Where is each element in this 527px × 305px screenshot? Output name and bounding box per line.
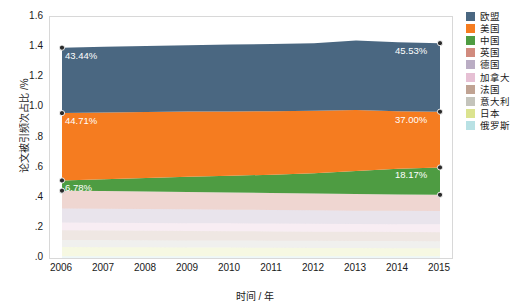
legend-item[interactable]: 日本 (466, 108, 526, 120)
legend-label: 俄罗斯 (480, 120, 510, 131)
legend-swatch-icon (466, 48, 475, 57)
x-tick-label: 2009 (167, 262, 207, 273)
x-tick-label: 2007 (83, 262, 123, 273)
legend-item[interactable]: 意大利 (466, 95, 526, 107)
value-label: 6.78% (65, 182, 92, 193)
legend-swatch-icon (466, 36, 475, 45)
y-tick-label: 1.2 (13, 71, 43, 81)
data-point-marker (59, 178, 64, 183)
legend-item[interactable]: 欧盟 (466, 10, 526, 22)
value-label: 37.00% (395, 114, 427, 125)
y-tick-label: .8 (13, 132, 43, 142)
data-point-marker (437, 192, 442, 197)
legend-label: 日本 (480, 108, 500, 119)
y-tick-label: 1.6 (13, 11, 43, 21)
data-point-marker (59, 188, 64, 193)
legend-item[interactable]: 加拿大 (466, 71, 526, 83)
value-label: 18.17% (395, 169, 427, 180)
legend-label: 意大利 (480, 96, 510, 107)
x-tick-label: 2014 (377, 262, 417, 273)
y-tick-label: .6 (13, 162, 43, 172)
area-series-1 (62, 40, 440, 113)
value-label: 43.44% (65, 50, 97, 61)
legend-swatch-icon (466, 60, 475, 69)
y-tick-label: 1.0 (13, 101, 43, 111)
legend-label: 德国 (480, 59, 500, 70)
legend-item[interactable]: 法国 (466, 83, 526, 95)
legend-item[interactable]: 德国 (466, 59, 526, 71)
x-tick-label: 2011 (251, 262, 291, 273)
plot-area (49, 16, 453, 259)
value-label: 44.71% (65, 115, 97, 126)
value-label: 45.53% (395, 45, 427, 56)
legend-item[interactable]: 美国 (466, 22, 526, 34)
data-point-marker (437, 165, 442, 170)
y-tick-label: .0 (13, 252, 43, 262)
legend-swatch-icon (466, 12, 475, 21)
legend-swatch-icon (466, 109, 475, 118)
legend-label: 中国 (480, 35, 500, 46)
area-series-8 (62, 240, 440, 248)
data-point-marker (59, 45, 64, 50)
x-tick-label: 2008 (125, 262, 165, 273)
y-tick-label: .2 (13, 222, 43, 232)
legend-item[interactable]: 俄罗斯 (466, 120, 526, 132)
stacked-area-chart: 论文被引频次占比 /% 时间 / 年 .0.2.4.6.81.01.21.41.… (0, 0, 527, 305)
legend-label: 法国 (480, 84, 500, 95)
legend-swatch-icon (466, 97, 475, 106)
legend-item[interactable]: 中国 (466, 34, 526, 46)
area-series-10 (62, 256, 440, 258)
x-tick-label: 2006 (41, 262, 81, 273)
y-tick-label: .4 (13, 192, 43, 202)
y-tick-label: 1.4 (13, 41, 43, 51)
x-tick-label: 2012 (293, 262, 333, 273)
x-tick-label: 2013 (335, 262, 375, 273)
x-axis-title: 时间 / 年 (60, 288, 450, 303)
area-series-9 (62, 247, 440, 256)
data-point-marker (437, 41, 442, 46)
legend-swatch-icon (466, 73, 475, 82)
x-tick-label: 2015 (419, 262, 459, 273)
plot-svg (50, 17, 452, 258)
legend: 欧盟美国中国英国德国加拿大法国意大利日本俄罗斯 (466, 10, 526, 132)
legend-label: 美国 (480, 23, 500, 34)
legend-label: 加拿大 (480, 72, 510, 83)
legend-swatch-icon (466, 121, 475, 130)
legend-item[interactable]: 英国 (466, 47, 526, 59)
x-tick-label: 2010 (209, 262, 249, 273)
legend-label: 欧盟 (480, 11, 500, 22)
area-series-5 (62, 208, 440, 224)
data-point-marker (59, 111, 64, 116)
legend-swatch-icon (466, 24, 475, 33)
legend-swatch-icon (466, 85, 475, 94)
data-point-marker (437, 109, 442, 114)
legend-label: 英国 (480, 47, 500, 58)
